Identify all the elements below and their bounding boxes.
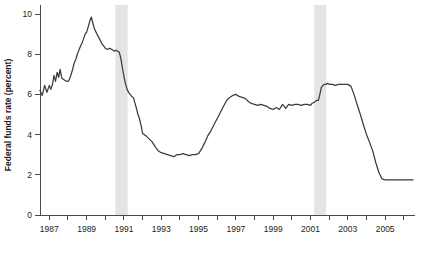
x-tick-label: 1991 [114,224,133,234]
y-tick-label: 6 [27,89,32,99]
y-tick-label: 0 [27,210,32,220]
x-tick-label: 1997 [226,224,245,234]
y-tick-label: 8 [27,49,32,59]
recession-bands-group [115,5,326,215]
y-tick-label: 4 [27,130,32,140]
y-tick-label: 2 [27,170,32,180]
x-tick-label: 2005 [376,224,395,234]
x-axis-group: 1987198919911993199519971999200120032005 [40,215,415,234]
x-tick-label: 1987 [40,224,59,234]
y-axis-group: 0246810 [23,5,40,220]
x-tick-label: 1999 [264,224,283,234]
x-tick-label: 1989 [77,224,96,234]
y-axis-ticks: 0246810 [23,9,40,220]
x-tick-label: 1993 [152,224,171,234]
x-axis-ticks: 1987198919911993199519971999200120032005 [40,215,404,234]
recession-band [314,5,326,215]
series-line-federal-funds-rate [40,17,413,180]
series-group [40,17,413,180]
recession-band [115,5,127,215]
chart-canvas: 0246810 19871989199119931995199719992001… [0,0,422,254]
x-tick-label: 1995 [189,224,208,234]
y-axis-title: Federal funds rate (percent) [3,59,13,172]
federal-funds-rate-chart: 0246810 19871989199119931995199719992001… [0,0,422,254]
x-tick-label: 2003 [338,224,357,234]
y-tick-label: 10 [23,9,33,19]
x-tick-label: 2001 [301,224,320,234]
